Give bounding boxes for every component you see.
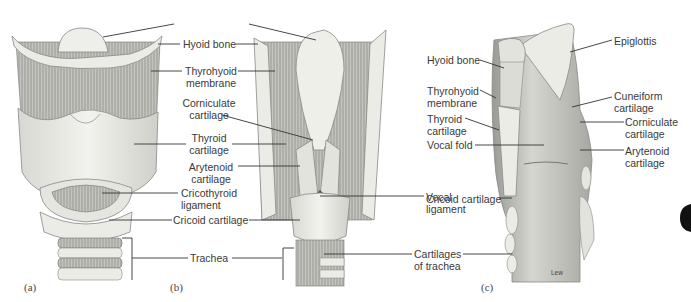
label-line-2: cartilage [180, 109, 238, 121]
label-c-thyroid-cartilage: Thyroid cartilage [427, 113, 467, 137]
label-line-2: membrane [427, 97, 479, 109]
label-arytenoid-cartilage: Arytenoid cartilage [186, 161, 236, 185]
label-line-1: Cricothyroid [181, 187, 237, 199]
label-c-hyoid-bone: Hyoid bone [427, 54, 480, 66]
label-line-1: Thyroid [186, 132, 232, 144]
label-line-1: Arytenoid [186, 161, 236, 173]
panel-label-b: (b) [170, 281, 183, 293]
label-c-arytenoid-cartilage: Arytenoid cartilage [625, 145, 669, 169]
label-thyrohyoid-membrane: Thyrohyoid membrane [185, 65, 237, 89]
label-line-1: Thyroid [427, 113, 467, 125]
panel-label-a: (a) [24, 281, 36, 293]
label-line-2: cartilage [625, 128, 678, 140]
label-line-1: Corniculate [625, 116, 678, 128]
panel-a-drawing [12, 28, 162, 280]
label-line-1: Thyrohyoid [427, 85, 479, 97]
label-corniculate-cartilage: Corniculate cartilage [180, 97, 238, 121]
label-c-vocal-fold: Vocal fold [427, 139, 473, 151]
label-line-1: Arytenoid [625, 145, 669, 157]
panel-c-drawing [492, 24, 594, 282]
label-cartilages-of-trachea: Cartilages of trachea [414, 248, 461, 272]
label-line-2: ligament [181, 199, 237, 211]
label-epiglottis: Epiglottis [614, 35, 657, 47]
label-thyroid-cartilage: Thyroid cartilage [186, 132, 232, 156]
label-line-2: cartilage [625, 157, 669, 169]
label-trachea: Trachea [190, 252, 228, 264]
label-c-corniculate-cartilage: Corniculate cartilage [625, 116, 678, 140]
illustrator-credit: Lew [551, 269, 563, 276]
label-line-2: membrane [185, 77, 237, 89]
label-c-cuneiform-cartilage: Cuneiform cartilage [614, 90, 662, 114]
panel-label-c: (c) [481, 281, 493, 293]
label-line-2: cartilage [186, 173, 236, 185]
cropped-glyph [680, 204, 691, 232]
label-line-2: cartilage [186, 144, 232, 156]
label-line-2: cartilage [614, 102, 662, 114]
label-line-1: Thyrohyoid [185, 65, 237, 77]
label-cricoid-cartilage: Cricoid cartilage [173, 214, 248, 226]
larynx-illustration [0, 0, 691, 302]
label-c-cricoid-cartilage: Cricoid cartilage [426, 193, 501, 205]
label-line-1: Corniculate [180, 97, 238, 109]
label-line-2: cartilage [427, 125, 467, 137]
label-hyoid-bone: Hyoid bone [183, 38, 236, 50]
label-cricothyroid-ligament: Cricothyroid ligament [181, 187, 237, 211]
label-c-thyrohyoid-membrane: Thyrohyoid membrane [427, 85, 479, 109]
label-line-2: of trachea [414, 260, 461, 272]
panel-b-drawing [254, 30, 386, 286]
label-line-1: Cuneiform [614, 90, 662, 102]
label-line-1: Cartilages [414, 248, 461, 260]
